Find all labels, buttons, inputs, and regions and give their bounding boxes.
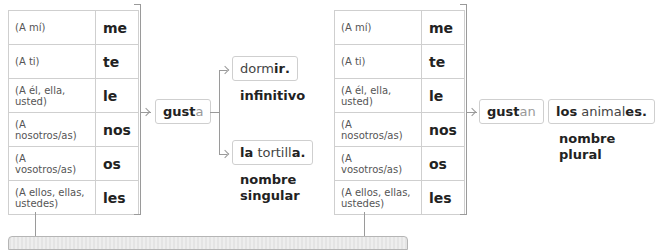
pronoun-value: te [96, 45, 139, 79]
table-row: (A él, ella, usted)le [9, 79, 139, 113]
table-row: (A ellos, ellas, ustedes)les [9, 181, 139, 215]
pronoun-value: te [422, 45, 465, 79]
table-row: (A él, ella, usted)le [335, 79, 465, 113]
verb-singular-box: gusta [155, 99, 211, 124]
example-ending: a [292, 145, 301, 160]
example-punct: . [642, 104, 647, 119]
pronoun-value: les [422, 181, 465, 215]
verb-ending: an [520, 104, 536, 119]
pronoun-label: (A mí) [335, 11, 422, 45]
bottom-bar [8, 236, 408, 250]
pronoun-value: me [422, 11, 465, 45]
caption-infinitive: infinitivo [240, 88, 305, 104]
table-row: (A ti)te [335, 45, 465, 79]
caption-line: nombre [240, 172, 300, 188]
arrow-right-icon [468, 108, 476, 116]
verb-stem: gust [163, 104, 196, 119]
pronoun-value: me [96, 11, 139, 45]
table-row: (A nosotros/as)nos [335, 113, 465, 147]
arrow-right-icon [142, 108, 150, 116]
caption-line: plural [559, 147, 615, 163]
pronoun-value: nos [96, 113, 139, 147]
caption-singular: nombre singular [240, 172, 300, 204]
example-article: la [240, 145, 253, 160]
caption-line: nombre [559, 131, 615, 147]
connector-line [364, 212, 365, 237]
branch-line [219, 70, 220, 155]
arrow-right-icon [221, 150, 229, 158]
pronoun-label: (A él, ella, usted) [335, 79, 422, 113]
left-pronoun-table: (A mí)me (A ti)te (A él, ella, usted)le … [8, 10, 139, 215]
example-stem: dorm [240, 61, 274, 76]
table-row: (A mí)me [335, 11, 465, 45]
caption-plural: nombre plural [559, 131, 615, 163]
verb-plural-box: gustan [479, 99, 544, 124]
table-row: (A vosotros/as)os [335, 147, 465, 181]
example-ending: ir [274, 61, 285, 76]
pronoun-label: (A ellos, ellas, ustedes) [9, 181, 96, 215]
right-table-bracket [460, 4, 467, 215]
example-article: los [556, 104, 577, 119]
pronoun-value: les [96, 181, 139, 215]
example-stem: animal [581, 104, 625, 119]
pronoun-label: (A nosotros/as) [9, 113, 96, 147]
pronoun-label: (A mí) [9, 11, 96, 45]
caption-line: singular [240, 188, 300, 204]
table-row: (A mí)me [9, 11, 139, 45]
example-punct: . [300, 145, 305, 160]
pronoun-label: (A vosotros/as) [9, 147, 96, 181]
pronoun-value: os [422, 147, 465, 181]
arrow-right-icon [221, 66, 229, 74]
pronoun-value: nos [422, 113, 465, 147]
table-row: (A ellos, ellas, ustedes)les [335, 181, 465, 215]
verb-ending: a [196, 104, 204, 119]
connector-line [35, 212, 36, 237]
pronoun-value: le [422, 79, 465, 113]
example-stem: tortill [257, 145, 291, 160]
example-plural-box: los animales. [548, 99, 655, 124]
table-row: (A vosotros/as)os [9, 147, 139, 181]
pronoun-label: (A nosotros/as) [335, 113, 422, 147]
pronoun-label: (A él, ella, usted) [9, 79, 96, 113]
pronoun-label: (A vosotros/as) [335, 147, 422, 181]
table-row: (A ti)te [9, 45, 139, 79]
pronoun-label: (A ti) [9, 45, 96, 79]
example-punct: . [285, 61, 290, 76]
pronoun-label: (A ellos, ellas, ustedes) [335, 181, 422, 215]
example-infinitive-box: dormir. [232, 56, 298, 81]
example-singular-box: la tortilla. [232, 140, 313, 165]
pronoun-value: le [96, 79, 139, 113]
right-pronoun-table: (A mí)me (A ti)te (A él, ella, usted)le … [334, 10, 465, 215]
pronoun-label: (A ti) [335, 45, 422, 79]
table-row: (A nosotros/as)nos [9, 113, 139, 147]
example-ending: es [625, 104, 642, 119]
left-table-bracket [134, 4, 141, 215]
pronoun-value: os [96, 147, 139, 181]
verb-stem: gust [487, 104, 520, 119]
